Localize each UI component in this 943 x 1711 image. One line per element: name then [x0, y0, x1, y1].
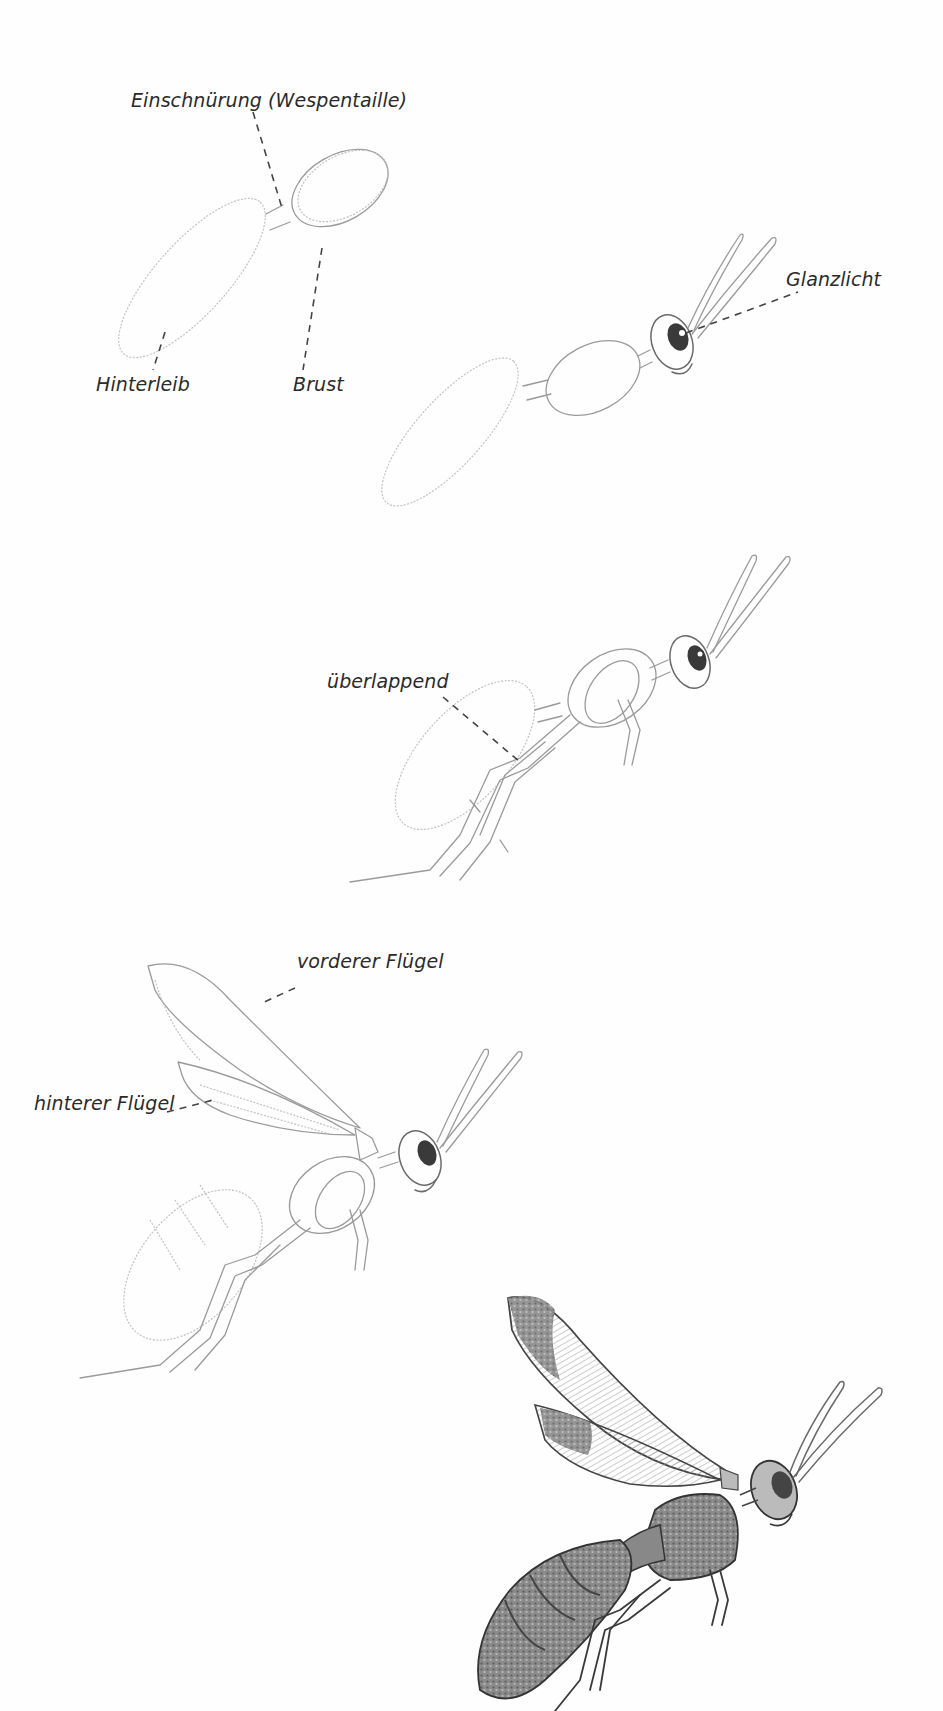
stage-1-basic-shapes [97, 112, 402, 378]
middle-leg [195, 1245, 280, 1370]
hind-leg [80, 1220, 310, 1378]
abdomen-shape [362, 339, 538, 524]
thorax-shape [553, 633, 671, 744]
label-abdomen: Hinterleib [96, 373, 190, 395]
hind-wing-shape [178, 1062, 355, 1135]
front-wing-leader-line [262, 988, 295, 1003]
thorax-shape [278, 133, 401, 242]
thorax-shape [275, 1141, 389, 1249]
abdomen-shape [97, 178, 287, 378]
label-thorax: Brust [293, 373, 344, 395]
hind-leg [350, 715, 580, 882]
front-leg [618, 700, 640, 765]
wasp-drawing-stages [0, 0, 943, 1711]
stage-3-legs [350, 555, 790, 882]
eye-shape [414, 1138, 440, 1169]
thorax-leader-line [303, 248, 322, 370]
drawing-tutorial-page: Einschnürung (Wespentaille) Hinterleib B… [0, 0, 943, 1711]
thorax-shape [533, 325, 652, 430]
stage-5-finished-wasp [478, 1296, 882, 1711]
eye-highlight [679, 330, 685, 336]
eye-shape [664, 320, 692, 353]
stage-4-wings [80, 964, 522, 1378]
abdomen-shaded [478, 1540, 631, 1698]
antenna-right [440, 1052, 522, 1152]
waist-leader-line [253, 112, 282, 208]
front-leg [710, 1570, 728, 1625]
label-highlight: Glanzlicht [786, 268, 881, 290]
stage-2-head-antennae [362, 234, 798, 524]
label-hind-wing: hinterer Flügel [34, 1092, 175, 1114]
front-wing-shape [148, 964, 360, 1128]
antenna-left [688, 234, 743, 330]
abdomen-leader-line [153, 332, 165, 370]
waist-shape [266, 205, 290, 230]
label-front-wing: vorderer Flügel [297, 950, 444, 972]
front-leg [350, 1210, 368, 1270]
label-overlap: überlappend [327, 670, 449, 692]
eye-shape [684, 643, 710, 674]
overlap-leader-line [443, 697, 520, 762]
antenna-right [710, 557, 790, 658]
label-waist: Einschnürung (Wespentaille) [131, 89, 407, 111]
